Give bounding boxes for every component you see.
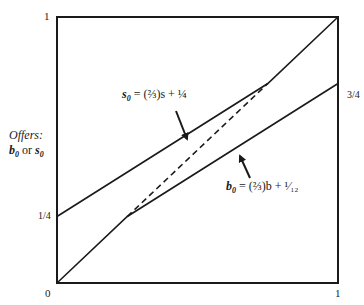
dashed-connector-line	[127, 84, 267, 217]
chart-area	[0, 0, 364, 305]
ylabel-b-sub: 0	[15, 150, 19, 159]
y-axis-label: Offers: b0 or s0	[9, 128, 44, 162]
y-tick-quarter: 1/4	[38, 211, 51, 221]
eq-s-rest: = (⅔)s + ¼	[131, 87, 187, 101]
s-equation-arrow-icon	[176, 111, 187, 139]
origin-tick: 0	[45, 288, 51, 299]
s-equation-label: s0 = (⅔)s + ¼	[122, 88, 187, 103]
b-equation-label: b0 = (⅔)b + ¹⁄₁₂	[226, 180, 299, 195]
y-tick-1: 1	[44, 11, 50, 22]
x-tick-1: 1	[335, 288, 341, 299]
ylabel-s-sub: 0	[40, 150, 44, 159]
right-tick-three-quarter: 3/4	[347, 90, 360, 100]
b-equation-arrow-icon	[240, 156, 250, 178]
y-axis-label-vars: b0 or s0	[9, 143, 44, 162]
y-tick-quarter-label: 1/4	[38, 210, 51, 221]
ylabel-or: or	[22, 143, 32, 157]
y-axis-label-offers: Offers:	[9, 128, 44, 143]
eq-b-rest: = (⅔)b + ¹⁄₁₂	[236, 179, 299, 193]
